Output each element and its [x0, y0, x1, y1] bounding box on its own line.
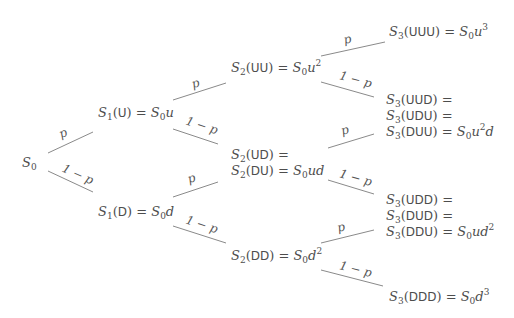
node-s3-ddd: S3(DDD) = S0d3 — [389, 289, 489, 305]
node-s2-ud: S2(UD) = S2(DU) = S0ud — [231, 147, 324, 179]
node-s3-uud-line2: S3(UDU) = — [386, 108, 494, 124]
node-s0: S0 — [22, 155, 37, 171]
node-s3-uuu: S3(UUU) = S0u3 — [389, 24, 488, 40]
node-s3-uud: S3(UUD) = S3(UDU) = S3(DUU) = S0u2d — [386, 92, 494, 140]
edge-s2uu-s3uuu — [321, 42, 385, 56]
node-s1-d: S1(D) = S0d — [98, 204, 174, 220]
node-s2-dd: S2(DD) = S0d2 — [231, 248, 322, 264]
node-s3-udd: S3(UDD) = S3(DUD) = S3(DDU) = S0ud2 — [386, 192, 494, 240]
node-s1-u: S1(U) = S0u — [98, 105, 174, 121]
node-s3-uud-line3: S3(DUU) = S0u2d — [386, 124, 494, 140]
edge-s2ud-s3uud — [328, 134, 374, 148]
node-s3-udd-line2: S3(DUD) = — [386, 208, 494, 224]
node-s2-uu: S2(UU) = S0u2 — [231, 60, 321, 76]
node-s3-uud-line1: S3(UUD) = — [386, 92, 494, 108]
node-s3-udd-line3: S3(DDU) = S0ud2 — [386, 224, 494, 240]
node-s3-udd-line1: S3(UDD) = — [386, 192, 494, 208]
edge-s2dd-s3udd — [321, 230, 374, 243]
node-s2-ud-line1: S2(UD) = — [231, 147, 324, 163]
edge-s1d-s2ud — [173, 182, 218, 197]
node-s2-ud-line2: S2(DU) = S0ud — [231, 163, 324, 179]
edge-s0-s1u — [48, 132, 93, 153]
